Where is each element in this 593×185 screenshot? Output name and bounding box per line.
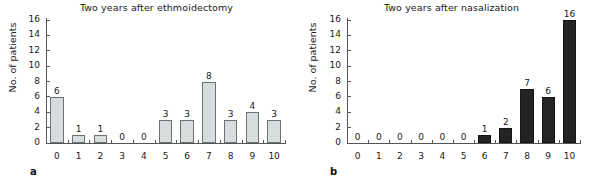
bar-value-label-a-4: 0 xyxy=(131,132,157,142)
y-tick-mark xyxy=(347,66,351,67)
y-tick-label: 4 xyxy=(335,106,341,117)
y-tick-label: 2 xyxy=(335,122,341,133)
bar-a-10 xyxy=(267,120,280,143)
x-tick-mark-b-3 xyxy=(411,140,412,144)
x-tick-mark-a-1 xyxy=(68,140,69,144)
figure-two-panel-bar-charts: Two years after ethmoidectomy No. of pat… xyxy=(0,0,593,185)
x-tick-mark-a-4 xyxy=(133,140,134,144)
x-axis-line-a xyxy=(46,143,285,144)
y-tick-label: 8 xyxy=(34,76,40,87)
x-tick-mark-a-end xyxy=(285,140,286,144)
bar-a-0 xyxy=(50,97,63,143)
y-tick-label: 12 xyxy=(330,45,341,56)
x-tick-label-a-3: 3 xyxy=(110,151,134,161)
x-tick-mark-a-0 xyxy=(46,140,47,144)
bar-a-8 xyxy=(224,120,237,143)
bar-b-6 xyxy=(478,135,491,143)
bar-a-1 xyxy=(72,135,85,143)
y-tick-label: 8 xyxy=(335,76,341,87)
y-tick-label: 0 xyxy=(34,137,40,148)
y-tick-label: 6 xyxy=(335,91,341,102)
x-tick-label-a-10: 10 xyxy=(262,151,286,161)
y-tick-mark xyxy=(46,66,50,67)
y-tick-label: 4 xyxy=(34,106,40,117)
x-tick-mark-b-4 xyxy=(432,140,433,144)
x-tick-label-a-2: 2 xyxy=(88,151,112,161)
y-tick-label: 14 xyxy=(330,29,341,40)
panel-a: Two years after ethmoidectomy No. of pat… xyxy=(0,0,293,185)
y-tick-mark xyxy=(46,35,50,36)
y-axis-label-a: No. of patients xyxy=(7,3,18,113)
x-tick-mark-b-10 xyxy=(559,140,560,144)
bar-b-10 xyxy=(563,20,576,143)
x-axis-line-b xyxy=(347,143,580,144)
y-tick-label: 12 xyxy=(29,45,40,56)
x-tick-mark-b-0 xyxy=(347,140,348,144)
bar-a-2 xyxy=(94,135,107,143)
bar-value-label-a-10: 3 xyxy=(261,109,287,119)
chart-title-a: Two years after ethmoidectomy xyxy=(0,2,293,13)
x-tick-mark-a-5 xyxy=(155,140,156,144)
x-tick-label-a-0: 0 xyxy=(45,151,69,161)
y-tick-mark xyxy=(347,81,351,82)
x-tick-label-a-7: 7 xyxy=(197,151,221,161)
bar-a-7 xyxy=(202,82,215,144)
x-tick-mark-a-9 xyxy=(242,140,243,144)
x-tick-label-b-10: 10 xyxy=(557,151,581,161)
x-tick-mark-b-6 xyxy=(474,140,475,144)
y-tick-label: 16 xyxy=(330,14,341,25)
x-tick-mark-a-3 xyxy=(111,140,112,144)
bar-value-label-a-0: 6 xyxy=(44,86,70,96)
y-tick-label: 10 xyxy=(330,60,341,71)
y-tick-label: 14 xyxy=(29,29,40,40)
y-tick-mark xyxy=(46,20,50,21)
bar-value-label-b-9: 6 xyxy=(535,86,561,96)
y-tick-mark xyxy=(347,127,351,128)
bar-b-9 xyxy=(542,97,555,143)
bar-b-7 xyxy=(499,128,512,143)
y-tick-mark xyxy=(347,50,351,51)
y-tick-mark xyxy=(347,35,351,36)
bar-value-label-b-7: 2 xyxy=(493,117,519,127)
x-tick-mark-a-2 xyxy=(89,140,90,144)
x-tick-mark-b-7 xyxy=(495,140,496,144)
x-tick-label-a-5: 5 xyxy=(154,151,178,161)
x-tick-mark-a-10 xyxy=(263,140,264,144)
y-tick-mark xyxy=(46,50,50,51)
x-tick-mark-b-8 xyxy=(516,140,517,144)
panel-letter-a: a xyxy=(30,166,37,177)
y-tick-mark xyxy=(347,20,351,21)
x-tick-mark-b-9 xyxy=(538,140,539,144)
chart-title-b: Two years after nasalization xyxy=(297,2,590,13)
x-tick-label-a-8: 8 xyxy=(219,151,243,161)
y-tick-label: 16 xyxy=(29,14,40,25)
bar-a-5 xyxy=(159,120,172,143)
y-tick-mark xyxy=(347,112,351,113)
y-tick-mark xyxy=(347,96,351,97)
plot-area-b: 0246810121416000102030405162778691610 xyxy=(347,20,580,143)
x-tick-mark-a-8 xyxy=(220,140,221,144)
bar-a-9 xyxy=(246,112,259,143)
y-tick-label: 2 xyxy=(34,122,40,133)
y-tick-label: 10 xyxy=(29,60,40,71)
y-tick-label: 6 xyxy=(34,91,40,102)
x-tick-mark-b-end xyxy=(580,140,581,144)
y-tick-mark xyxy=(46,81,50,82)
bar-value-label-a-7: 8 xyxy=(196,71,222,81)
y-tick-label: 0 xyxy=(335,137,341,148)
bar-b-8 xyxy=(520,89,533,143)
bar-a-6 xyxy=(180,120,193,143)
panel-b: Two years after nasalization No. of pati… xyxy=(297,0,590,185)
plot-area-a: 024681012141660111203043536873849310 xyxy=(46,20,285,143)
x-tick-mark-b-2 xyxy=(389,140,390,144)
x-tick-mark-b-5 xyxy=(453,140,454,144)
x-tick-label-a-1: 1 xyxy=(67,151,91,161)
bar-value-label-a-6: 3 xyxy=(174,109,200,119)
x-tick-label-a-6: 6 xyxy=(175,151,199,161)
x-tick-label-a-4: 4 xyxy=(132,151,156,161)
bar-value-label-b-10: 16 xyxy=(556,9,582,19)
x-tick-mark-a-7 xyxy=(198,140,199,144)
x-tick-mark-a-6 xyxy=(176,140,177,144)
panel-letter-b: b xyxy=(330,166,337,177)
x-tick-mark-b-1 xyxy=(368,140,369,144)
